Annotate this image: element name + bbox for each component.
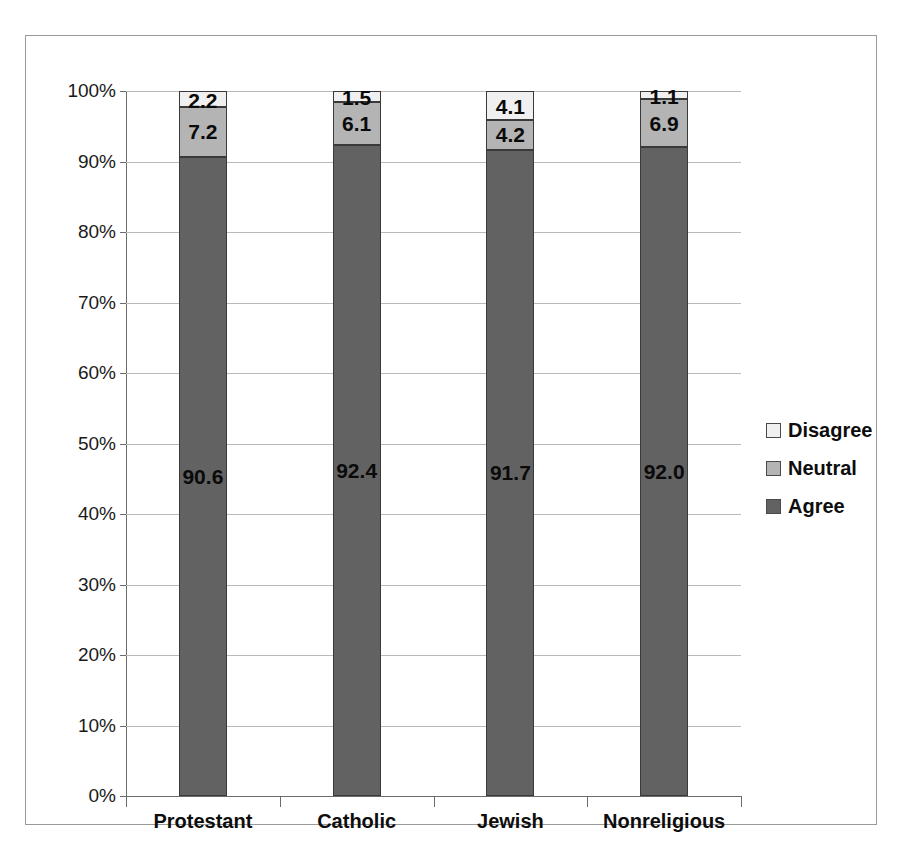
bar-value-label: 2.2: [188, 89, 217, 110]
category-label-nonreligious: Nonreligious: [587, 810, 741, 833]
bar-value-label: 4.1: [496, 96, 525, 117]
bar-segment-jewish-neutral[interactable]: 4.2: [486, 120, 534, 150]
chart-legend: DisagreeNeutralAgree: [766, 419, 896, 533]
value-axis-label: 0%: [50, 785, 116, 807]
category-axis-tick: [126, 796, 127, 807]
legend-swatch-icon: [766, 499, 781, 514]
value-axis-label: 50%: [50, 433, 116, 455]
bar-value-label: 92.0: [644, 461, 685, 482]
legend-item-neutral[interactable]: Neutral: [766, 457, 896, 479]
bar-segment-nonreligious-agree[interactable]: 92.0: [640, 147, 688, 796]
category-axis-tick: [741, 796, 742, 807]
legend-label: Disagree: [788, 419, 873, 442]
legend-swatch-icon: [766, 461, 781, 476]
legend-swatch-icon: [766, 423, 781, 438]
value-axis-label: 10%: [50, 715, 116, 737]
bar-group-catholic[interactable]: 92.46.11.5: [333, 91, 381, 796]
category-axis-tick: [587, 796, 588, 807]
category-label-jewish: Jewish: [434, 810, 588, 833]
category-label-protestant: Protestant: [126, 810, 280, 833]
bar-segment-catholic-disagree[interactable]: 1.5: [333, 91, 381, 102]
value-axis-labels: 0%10%20%30%40%50%60%70%80%90%100%: [44, 36, 116, 824]
bar-group-jewish[interactable]: 91.74.24.1: [486, 91, 534, 796]
category-axis-tick: [434, 796, 435, 807]
bar-segment-protestant-neutral[interactable]: 7.2: [179, 107, 227, 158]
value-axis-label: 20%: [50, 644, 116, 666]
bar-value-label: 92.4: [336, 460, 377, 481]
value-axis-label: 90%: [50, 151, 116, 173]
bar-segment-jewish-disagree[interactable]: 4.1: [486, 91, 534, 120]
value-axis-tick: [120, 585, 126, 586]
value-axis-tick: [120, 444, 126, 445]
value-axis-tick: [120, 514, 126, 515]
value-axis-tick: [120, 232, 126, 233]
bar-value-label: 6.1: [342, 113, 371, 134]
value-axis-tick: [120, 162, 126, 163]
bar-value-label: 90.6: [182, 466, 223, 487]
bar-value-label: 1.5: [342, 87, 371, 108]
legend-item-disagree[interactable]: Disagree: [766, 419, 896, 441]
bar-group-protestant[interactable]: 90.67.22.2: [179, 91, 227, 796]
value-axis-tick: [120, 303, 126, 304]
value-axis-label: 70%: [50, 292, 116, 314]
value-axis-tick: [120, 373, 126, 374]
value-axis-label: 30%: [50, 574, 116, 596]
value-axis-label: 40%: [50, 503, 116, 525]
chart-frame: 0%10%20%30%40%50%60%70%80%90%100% 90.67.…: [25, 35, 877, 825]
bar-segment-catholic-agree[interactable]: 92.4: [333, 145, 381, 796]
legend-label: Agree: [788, 495, 845, 518]
bar-group-nonreligious[interactable]: 92.06.91.1: [640, 91, 688, 796]
category-axis: ProtestantCatholicJewishNonreligious: [126, 796, 741, 848]
bar-segment-protestant-disagree[interactable]: 2.2: [179, 91, 227, 107]
value-axis-tick: [120, 796, 126, 797]
bar-value-label: 91.7: [490, 462, 531, 483]
bar-value-label: 7.2: [188, 121, 217, 142]
bar-value-label: 6.9: [650, 113, 679, 134]
bar-value-label: 1.1: [650, 85, 679, 106]
value-axis-tick: [120, 91, 126, 92]
legend-item-agree[interactable]: Agree: [766, 495, 896, 517]
value-axis-tick: [120, 655, 126, 656]
bar-value-label: 4.2: [496, 124, 525, 145]
value-axis-label: 80%: [50, 221, 116, 243]
value-axis-tick: [120, 726, 126, 727]
bar-segment-jewish-agree[interactable]: 91.7: [486, 150, 534, 796]
bar-segment-protestant-agree[interactable]: 90.6: [179, 157, 227, 796]
plot-area: 90.67.22.292.46.11.591.74.24.192.06.91.1: [126, 91, 741, 796]
category-label-catholic: Catholic: [280, 810, 434, 833]
category-axis-tick: [280, 796, 281, 807]
value-axis-label: 60%: [50, 362, 116, 384]
value-axis-label: 100%: [50, 80, 116, 102]
bar-segment-nonreligious-disagree[interactable]: 1.1: [640, 91, 688, 99]
legend-label: Neutral: [788, 457, 857, 480]
